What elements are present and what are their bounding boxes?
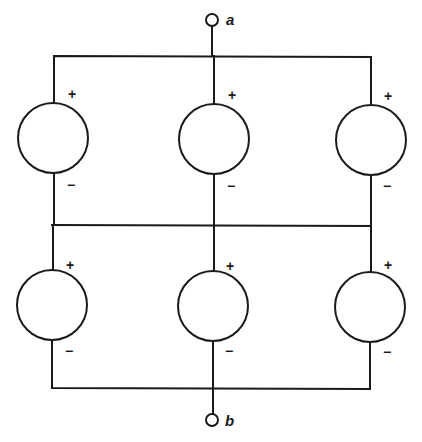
minus-sign-5: −: [225, 343, 233, 359]
voltage-source-5: [178, 271, 248, 341]
voltage-source-3: [336, 105, 406, 175]
voltage-source-4: [17, 270, 87, 340]
terminal-b-label: b: [225, 412, 234, 429]
plus-sign-2: +: [228, 87, 236, 103]
minus-sign-1: −: [67, 177, 75, 193]
minus-sign-3: −: [383, 178, 391, 194]
minus-sign-2: −: [227, 178, 235, 194]
voltage-source-2: [179, 104, 249, 174]
voltage-source-6: [335, 272, 405, 342]
circuit-diagram: + − + − + − + − + − + − a b: [0, 0, 422, 442]
plus-sign-1: +: [68, 86, 76, 102]
wire-middle-bus: [52, 225, 371, 226]
voltage-source-1: [18, 103, 88, 173]
wire-bottom-bus: [52, 341, 370, 389]
plus-sign-5: +: [226, 258, 234, 274]
minus-sign-4: −: [65, 343, 73, 359]
terminal-a-label: a: [226, 11, 234, 28]
plus-sign-3: +: [384, 88, 392, 104]
plus-sign-6: +: [384, 257, 392, 273]
minus-sign-6: −: [383, 344, 391, 360]
plus-sign-4: +: [66, 257, 74, 273]
terminal-b-node: [206, 414, 218, 426]
terminal-a-node: [206, 14, 218, 26]
wire-top-bus: [54, 56, 371, 105]
